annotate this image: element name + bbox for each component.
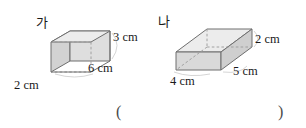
- answer-close-paren: ): [278, 104, 283, 120]
- figure-label-ga: 가: [36, 16, 48, 29]
- prism-na-face-left: [176, 52, 221, 70]
- figure-page: 가 3 cm 6 cm 2 cm 나 2 cm 5 cm 4 cm ( ): [0, 0, 306, 128]
- figure-label-na: 나: [158, 15, 170, 28]
- dimension-label-ga-height: 3 cm: [113, 31, 138, 44]
- dimension-label-ga-width: 2 cm: [14, 79, 39, 92]
- dimension-label-na-width: 4 cm: [170, 75, 195, 88]
- answer-open-paren: (: [116, 104, 121, 120]
- dimension-label-na-length: 5 cm: [233, 65, 258, 78]
- dimension-label-ga-length: 6 cm: [88, 62, 113, 75]
- dimension-label-na-height: 2 cm: [255, 33, 280, 46]
